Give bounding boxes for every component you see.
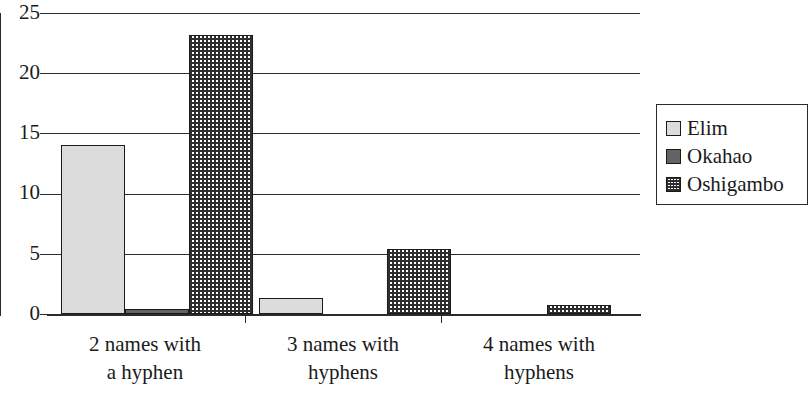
gridline-20 bbox=[47, 73, 640, 74]
x-axis-label-group-3-line-1: 4 names with bbox=[441, 330, 637, 358]
legend: Elim Okahao Oshigambo bbox=[656, 104, 808, 205]
gridline-10 bbox=[47, 194, 640, 195]
y-tick-label-5: 5 bbox=[6, 243, 40, 264]
x-axis-label-group-2-line-2: hyphens bbox=[245, 358, 441, 386]
gridline-15 bbox=[47, 133, 640, 134]
gridline-5 bbox=[47, 254, 640, 255]
legend-item-okahao: Okahao bbox=[666, 142, 801, 170]
legend-swatch-icon-okahao bbox=[666, 149, 681, 164]
legend-swatch-icon-elim bbox=[666, 121, 681, 136]
bar-oshigambo-group-3 bbox=[547, 305, 611, 314]
bar-elim-group-2 bbox=[259, 298, 323, 314]
x-axis-label-group-3: 4 names with hyphens bbox=[441, 330, 637, 386]
bar-elim-group-1 bbox=[61, 145, 125, 314]
x-tick-mark-2 bbox=[441, 314, 442, 323]
x-axis-label-group-1: 2 names with a hyphen bbox=[47, 330, 243, 386]
x-axis-line bbox=[47, 314, 641, 316]
legend-swatch-icon-oshigambo bbox=[666, 177, 681, 192]
y-axis-line bbox=[0, 13, 1, 316]
bar-oshigambo-group-1 bbox=[189, 35, 253, 314]
bar-oshigambo-group-2 bbox=[387, 249, 451, 314]
gridline-25 bbox=[47, 13, 640, 14]
y-tick-label-0: 0 bbox=[6, 303, 40, 324]
x-axis-label-group-1-line-2: a hyphen bbox=[47, 358, 243, 386]
x-axis-label-group-1-line-1: 2 names with bbox=[47, 330, 243, 358]
legend-label-elim: Elim bbox=[687, 118, 728, 139]
x-axis-label-group-2-line-1: 3 names with bbox=[245, 330, 441, 358]
y-axis-tick-labels: 25 20 15 10 5 0 bbox=[0, 0, 40, 330]
x-axis-label-group-3-line-2: hyphens bbox=[441, 358, 637, 386]
y-tick-label-15: 15 bbox=[6, 122, 40, 143]
y-tick-label-25: 25 bbox=[6, 2, 40, 23]
legend-item-elim: Elim bbox=[666, 114, 801, 142]
legend-item-oshigambo: Oshigambo bbox=[666, 170, 801, 198]
y-tick-label-20: 20 bbox=[6, 62, 40, 83]
x-axis-label-group-2: 3 names with hyphens bbox=[245, 330, 441, 386]
plot-area bbox=[47, 13, 640, 314]
legend-label-oshigambo: Oshigambo bbox=[687, 174, 784, 195]
y-tick-label-10: 10 bbox=[6, 182, 40, 203]
x-tick-mark-1 bbox=[245, 314, 246, 323]
legend-label-okahao: Okahao bbox=[687, 146, 752, 167]
